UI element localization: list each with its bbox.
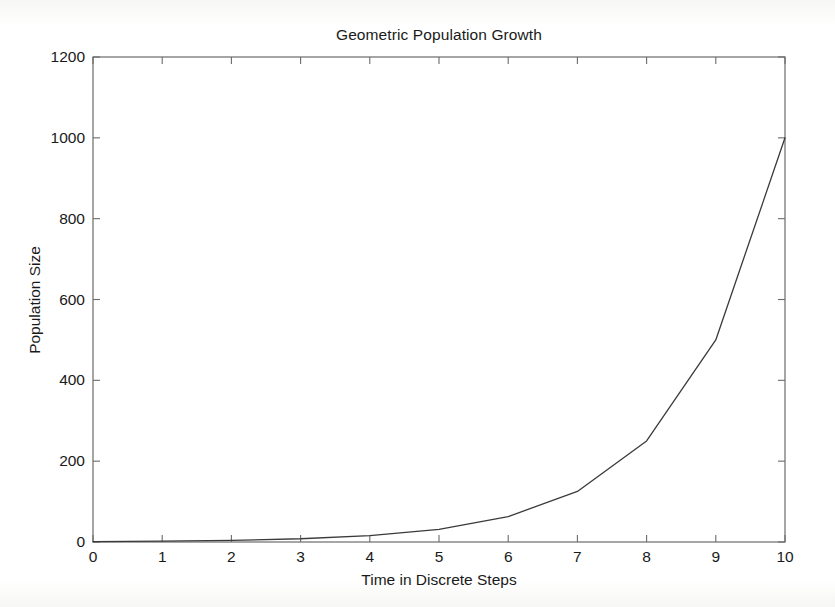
x-tick-label: 3 [281,548,321,566]
axes-box [93,57,785,542]
chart-figure: Geometric Population Growth Population S… [0,0,835,607]
x-tick-label: 2 [211,548,251,566]
x-tick-label: 10 [765,548,805,566]
axes-frame [93,57,785,542]
figure-page: Geometric Population Growth Population S… [0,0,835,607]
x-tick-label: 4 [350,548,390,566]
x-tick-label: 6 [488,548,528,566]
plot-area [0,0,835,607]
x-tick-label: 1 [142,548,182,566]
x-tick-label: 8 [627,548,667,566]
x-tick-label: 0 [73,548,113,566]
x-tick-label: 9 [696,548,736,566]
x-tick-label: 5 [419,548,459,566]
x-tick-label: 7 [557,548,597,566]
